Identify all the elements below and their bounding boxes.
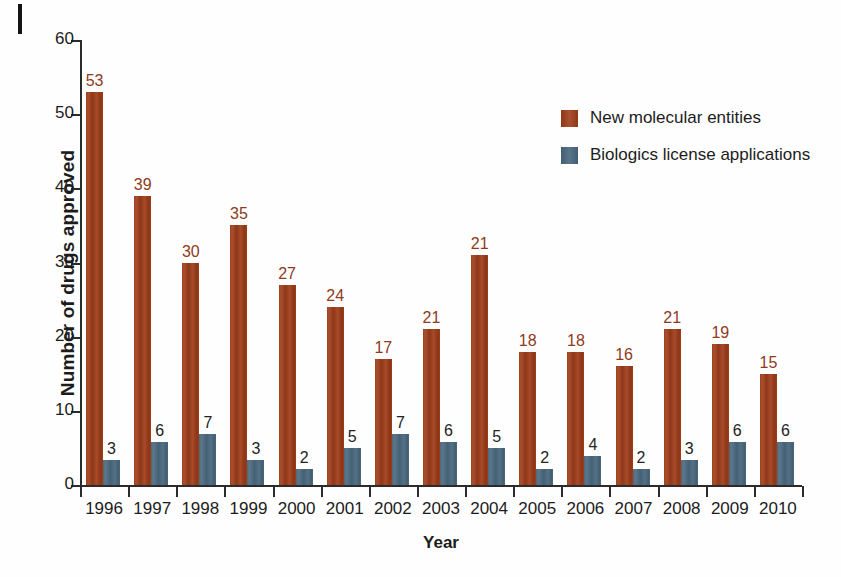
legend-swatch-icon (561, 147, 578, 164)
x-tick-mark (465, 486, 467, 497)
bar-new-molecular-entities: 30 (182, 263, 199, 486)
bar-biologics-license-applications: 2 (633, 469, 650, 485)
bar-value-label: 17 (374, 339, 392, 357)
x-tick-label: 1997 (133, 499, 171, 519)
chart-legend: New molecular entitiesBiologics license … (561, 108, 810, 182)
x-tick-label: 2009 (711, 499, 749, 519)
x-tick-mark (513, 486, 515, 497)
figure-container: Number of drugs approved 0102030405060 5… (0, 0, 841, 577)
bar-value-label: 6 (444, 422, 453, 440)
plot-area: 0102030405060 53339630735327224517721621… (80, 40, 802, 485)
bar-value-label: 7 (396, 414, 405, 432)
y-axis-line (80, 40, 82, 486)
x-tick-label: 2010 (759, 499, 797, 519)
bar-new-molecular-entities: 21 (664, 329, 681, 485)
x-tick-mark (224, 486, 226, 497)
bar-value-label: 27 (278, 265, 296, 283)
y-tick-label: 60 (55, 29, 74, 49)
x-tick-mark (176, 486, 178, 497)
bar-new-molecular-entities: 53 (86, 92, 103, 485)
x-tick-mark (754, 486, 756, 497)
bar-value-label: 18 (567, 332, 585, 350)
bar-value-label: 18 (519, 332, 537, 350)
bar-value-label: 5 (348, 428, 357, 446)
x-tick-mark (609, 486, 611, 497)
bar-biologics-license-applications: 6 (777, 442, 794, 485)
y-tick-label: 20 (55, 326, 74, 346)
legend-item: New molecular entities (561, 108, 810, 128)
bar-value-label: 24 (326, 287, 344, 305)
page-edge-mark-icon (18, 4, 22, 34)
bar-value-label: 7 (203, 414, 212, 432)
x-tick-label: 2000 (278, 499, 316, 519)
x-tick-mark (128, 486, 130, 497)
bar-new-molecular-entities: 18 (567, 352, 584, 486)
bar-value-label: 3 (252, 440, 261, 458)
x-tick-label: 1999 (230, 499, 268, 519)
x-tick-mark (561, 486, 563, 497)
x-tick-mark (706, 486, 708, 497)
x-tick-mark (321, 486, 323, 497)
bar-value-label: 53 (86, 72, 104, 90)
y-tick-label: 40 (55, 177, 74, 197)
bar-value-label: 15 (760, 354, 778, 372)
bar-new-molecular-entities: 27 (279, 285, 296, 485)
y-tick-label: 0 (65, 474, 74, 494)
bar-value-label: 21 (423, 309, 441, 327)
bar-value-label: 3 (685, 440, 694, 458)
bar-biologics-license-applications: 3 (247, 460, 264, 485)
bar-value-label: 30 (182, 243, 200, 261)
bar-value-label: 6 (781, 422, 790, 440)
bar-new-molecular-entities: 19 (712, 344, 729, 485)
bar-value-label: 2 (637, 449, 646, 467)
bar-value-label: 21 (471, 235, 489, 253)
legend-swatch-icon (561, 110, 578, 127)
bar-biologics-license-applications: 7 (392, 434, 409, 485)
x-tick-label: 2008 (663, 499, 701, 519)
x-tick-label: 2006 (566, 499, 604, 519)
bar-new-molecular-entities: 35 (230, 225, 247, 485)
bar-biologics-license-applications: 4 (584, 456, 601, 485)
bar-biologics-license-applications: 7 (199, 434, 216, 485)
bar-biologics-license-applications: 2 (536, 469, 553, 485)
bar-biologics-license-applications: 3 (681, 460, 698, 485)
legend-label: Biologics license applications (590, 145, 810, 165)
bar-value-label: 4 (588, 436, 597, 454)
bar-new-molecular-entities: 21 (423, 329, 440, 485)
x-tick-mark (802, 486, 804, 497)
x-tick-mark (658, 486, 660, 497)
bar-new-molecular-entities: 15 (760, 374, 777, 485)
x-tick-label: 2007 (615, 499, 653, 519)
x-tick-mark (80, 486, 82, 497)
x-tick-label: 2003 (422, 499, 460, 519)
bar-biologics-license-applications: 5 (344, 448, 361, 485)
x-tick-label: 1998 (181, 499, 219, 519)
bar-value-label: 21 (663, 309, 681, 327)
y-tick-label: 50 (55, 103, 74, 123)
y-tick-label: 30 (55, 252, 74, 272)
bar-value-label: 6 (155, 422, 164, 440)
bar-new-molecular-entities: 16 (616, 366, 633, 485)
bar-value-label: 2 (300, 449, 309, 467)
x-tick-mark (417, 486, 419, 497)
x-tick-mark (369, 486, 371, 497)
x-tick-label: 2004 (470, 499, 508, 519)
bar-biologics-license-applications: 3 (103, 460, 120, 485)
bar-value-label: 19 (711, 324, 729, 342)
bar-value-label: 3 (107, 440, 116, 458)
legend-label: New molecular entities (590, 108, 761, 128)
bar-value-label: 5 (492, 428, 501, 446)
bar-value-label: 6 (733, 422, 742, 440)
bar-new-molecular-entities: 18 (519, 352, 536, 486)
bar-value-label: 35 (230, 205, 248, 223)
x-tick-mark (273, 486, 275, 497)
bar-biologics-license-applications: 6 (440, 442, 457, 485)
bar-biologics-license-applications: 6 (151, 442, 168, 485)
legend-item: Biologics license applications (561, 145, 810, 165)
x-axis-label: Year (80, 533, 802, 553)
bar-value-label: 39 (134, 176, 152, 194)
x-tick-label: 2005 (518, 499, 556, 519)
bar-new-molecular-entities: 21 (471, 255, 488, 485)
bar-biologics-license-applications: 5 (488, 448, 505, 485)
bar-new-molecular-entities: 39 (134, 196, 151, 485)
